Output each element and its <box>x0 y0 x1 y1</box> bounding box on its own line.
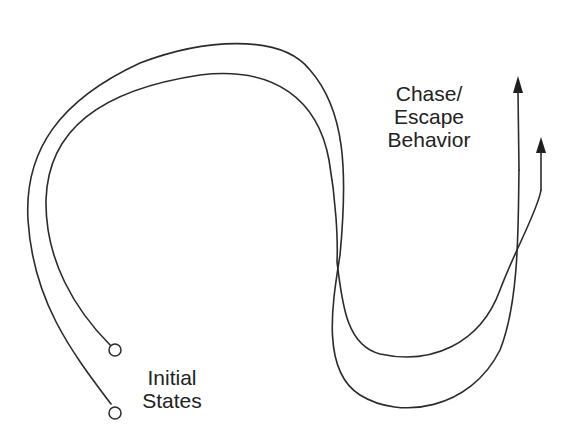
phase-trajectory-diagram <box>0 0 571 436</box>
arrowhead-icon <box>536 137 546 153</box>
initial-label-line: Initial <box>132 366 212 389</box>
initial-label-line: States <box>132 389 212 412</box>
initial-states-label: Initial States <box>132 366 212 412</box>
arrow-shaft-outer <box>518 92 519 170</box>
behavior-label-line: Chase/ <box>374 82 484 105</box>
initial-state-marker <box>109 344 121 356</box>
behavior-label-line: Behavior <box>374 128 484 151</box>
arrowhead-icon <box>513 76 523 93</box>
initial-state-marker <box>109 407 121 419</box>
behavior-label: Chase/ Escape Behavior <box>374 82 484 151</box>
behavior-label-line: Escape <box>374 105 484 128</box>
